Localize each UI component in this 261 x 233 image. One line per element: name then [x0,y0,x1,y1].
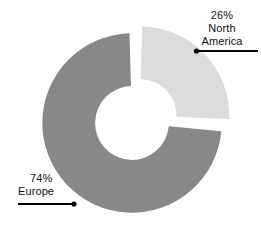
donut-chart-canvas: 26% North America 74% Europe [0,0,261,233]
north-america-region-label-line1: North [208,22,235,34]
north-america-percent-label: 26% [211,9,233,21]
pie-chart: 26% North America 74% Europe [0,0,261,233]
europe-leader-dot [71,201,76,206]
europe-region-label: Europe [18,185,54,197]
europe-percent-label: 74% [30,172,52,184]
north-america-region-label-line2: America [201,35,243,47]
north-america-leader-dot [194,48,199,53]
